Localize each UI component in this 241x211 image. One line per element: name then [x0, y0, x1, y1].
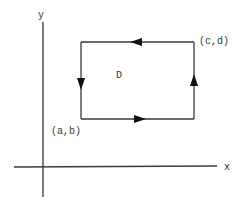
arrow-left-icon: [130, 38, 142, 46]
arrow-right-icon: [134, 115, 146, 123]
y-axis-label: y: [38, 10, 44, 21]
region-label: D: [116, 70, 122, 81]
diagram-canvas: y x D (c,d) (a,b): [0, 0, 241, 211]
arrow-up-icon: [190, 74, 198, 86]
x-axis: [14, 166, 217, 167]
x-axis-label: x: [224, 162, 230, 173]
rectangle-boundary: [81, 42, 194, 119]
corner-label-upper-right: (c,d): [199, 36, 229, 47]
arrow-down-icon: [77, 78, 85, 90]
corner-label-lower-left: (a,b): [51, 126, 81, 137]
